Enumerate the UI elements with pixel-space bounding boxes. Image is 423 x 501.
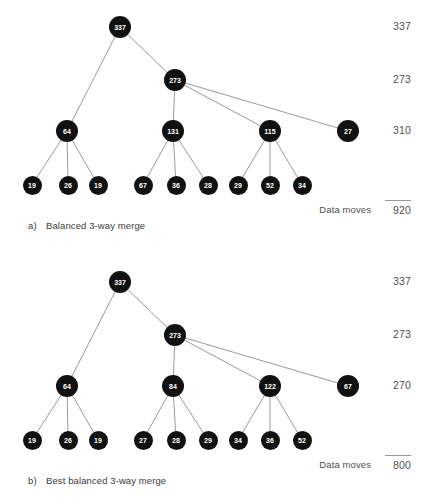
data-moves-label: Data moves xyxy=(319,204,371,215)
tree-node-internal[interactable]: 273 xyxy=(164,324,186,346)
tree-edge xyxy=(175,80,270,131)
tree-node-leaf[interactable]: 36 xyxy=(261,431,280,450)
tree-node-leaf[interactable]: 67 xyxy=(134,176,153,195)
level-sum-label: 337 xyxy=(377,20,411,32)
tree-node-leaf[interactable]: 29 xyxy=(199,431,218,450)
tree-node-internal[interactable]: 115 xyxy=(259,120,281,142)
tree-node-root[interactable]: 337 xyxy=(109,271,131,293)
level-sum-label: 273 xyxy=(377,328,411,340)
tree-node-leaf[interactable]: 26 xyxy=(59,431,78,450)
tree-node-internal[interactable]: 64 xyxy=(56,375,78,397)
tree-node-leaf[interactable]: 19 xyxy=(23,431,42,450)
tree-node-leaf[interactable]: 34 xyxy=(229,431,248,450)
tree-edge xyxy=(175,335,270,386)
tree-node-leaf[interactable]: 19 xyxy=(23,176,42,195)
tree-node-internal[interactable]: 67 xyxy=(337,375,359,397)
level-sum-label: 270 xyxy=(377,379,411,391)
level-sum-label: 273 xyxy=(377,73,411,85)
tree-node-internal[interactable]: 27 xyxy=(337,120,359,142)
tree-node-leaf[interactable]: 28 xyxy=(199,176,218,195)
tree-node-leaf[interactable]: 26 xyxy=(59,176,78,195)
tree-node-leaf[interactable]: 28 xyxy=(167,431,186,450)
caption-tag: b) xyxy=(28,475,46,486)
tree-edge xyxy=(67,27,120,131)
tree-edge xyxy=(67,282,120,386)
caption-text: Best balanced 3-way merge xyxy=(46,475,166,486)
panel-best-balanced-3way-merge: 3372736484122671926192728293436523372732… xyxy=(0,255,423,501)
panel-balanced-3way-merge: 3372736413111527192619673628295234337273… xyxy=(0,0,423,250)
tree-node-root[interactable]: 337 xyxy=(109,16,131,38)
level-sum-label: 337 xyxy=(377,275,411,287)
level-sum-label: 310 xyxy=(377,124,411,136)
tree-node-leaf[interactable]: 52 xyxy=(261,176,280,195)
tree-node-leaf[interactable]: 27 xyxy=(134,431,153,450)
panel-caption: a)Balanced 3-way merge xyxy=(28,220,145,231)
total-rule xyxy=(385,455,411,456)
tree-node-internal[interactable]: 64 xyxy=(56,120,78,142)
panel-caption: b)Best balanced 3-way merge xyxy=(28,475,166,486)
tree-node-leaf[interactable]: 29 xyxy=(229,176,248,195)
caption-text: Balanced 3-way merge xyxy=(46,220,145,231)
tree-node-leaf[interactable]: 19 xyxy=(89,431,108,450)
tree-node-internal[interactable]: 84 xyxy=(162,375,184,397)
tree-node-leaf[interactable]: 36 xyxy=(167,176,186,195)
caption-tag: a) xyxy=(28,220,46,231)
tree-node-leaf[interactable]: 34 xyxy=(293,176,312,195)
tree-node-internal[interactable]: 273 xyxy=(164,69,186,91)
data-moves-value: 800 xyxy=(377,459,411,471)
tree-node-leaf[interactable]: 19 xyxy=(89,176,108,195)
data-moves-label: Data moves xyxy=(319,459,371,470)
total-rule xyxy=(385,200,411,201)
data-moves-value: 920 xyxy=(377,204,411,216)
tree-node-internal[interactable]: 131 xyxy=(162,120,184,142)
tree-node-leaf[interactable]: 52 xyxy=(293,431,312,450)
tree-node-internal[interactable]: 122 xyxy=(259,375,281,397)
